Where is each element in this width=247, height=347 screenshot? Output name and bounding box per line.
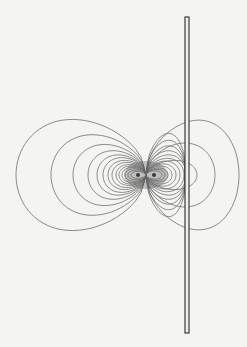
conducting-plate [185,17,189,333]
dipole-core [124,161,168,189]
pole-right [152,173,156,177]
field-diagram [0,0,247,347]
pole-left [136,173,140,177]
core-density-shading [124,161,168,189]
